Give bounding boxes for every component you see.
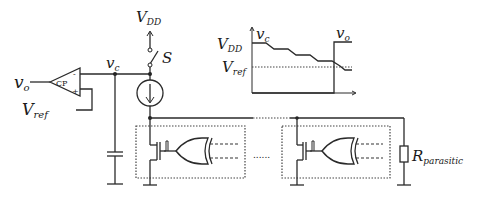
vref-label: Vref	[22, 100, 50, 120]
waveform-inset: VDD Vref vc vo	[217, 24, 356, 95]
vdd-switch: VDD S	[136, 8, 172, 80]
switch-contact-bottom	[148, 63, 152, 67]
capacitor	[107, 74, 123, 184]
switch-label: S	[162, 49, 172, 67]
current-source	[137, 80, 163, 118]
parasitic-resistor: Rparasitic	[397, 118, 463, 185]
comparator: CP - +	[30, 68, 150, 110]
ellipsis: ......	[253, 150, 270, 160]
circuit-diagram: CP - + vo Vref vc VDD S	[0, 0, 490, 198]
rpar-label: Rparasitic	[411, 147, 463, 166]
comparator-plus: +	[72, 87, 79, 96]
vc-waveform	[252, 43, 352, 70]
waveform-vo-label: vo	[336, 24, 350, 43]
switch-blade	[150, 51, 158, 64]
waveform-vdd-label: VDD	[217, 35, 242, 54]
waveform-vc-label: vc	[256, 25, 270, 44]
vc-label: vc	[106, 54, 120, 73]
stage-1	[136, 118, 245, 185]
comparator-minus: -	[73, 70, 76, 79]
switch-contact-top	[148, 48, 152, 52]
comparator-label: CP	[56, 79, 68, 88]
vdd-label: VDD	[136, 8, 161, 27]
waveform-vref-label: Vref	[222, 58, 247, 77]
stage-n	[282, 118, 390, 185]
vo-label: vo	[14, 72, 30, 93]
